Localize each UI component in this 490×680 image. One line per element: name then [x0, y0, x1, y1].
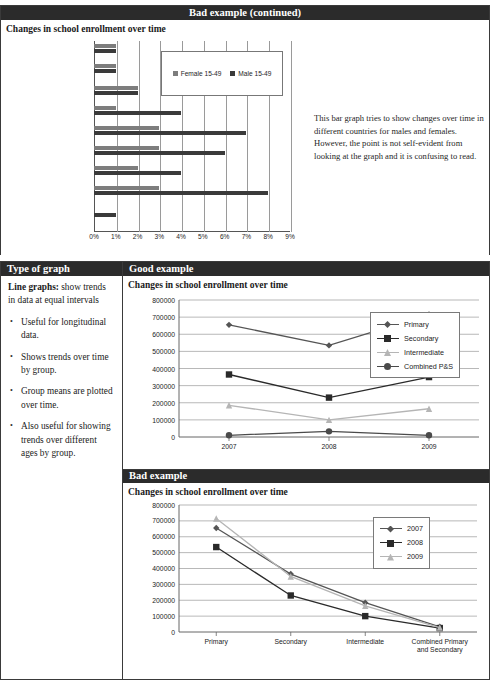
- bar-chart: Roina 2005Roina 2000Moavia 2003Moavia 19…: [1, 38, 306, 252]
- bar-female: [94, 146, 159, 150]
- table-left-column: Type of graph Line graphs: show trends i…: [1, 262, 123, 679]
- bar-female: [94, 186, 159, 190]
- bar-male: [94, 191, 268, 195]
- bar-chart-legend-label: Male 15-49: [238, 70, 271, 77]
- legend-item: 2008: [380, 536, 423, 550]
- data-point-marker: [213, 543, 219, 549]
- y-axis-tick-label: 0: [129, 628, 175, 635]
- legend-item: 2007: [380, 522, 423, 536]
- good-example-panel: Changes in school enrollment over time 0…: [123, 276, 489, 469]
- legend-marker: [380, 524, 402, 533]
- bar-chart-legend-label: Female 15-49: [181, 70, 222, 77]
- legend-item: Secondary: [377, 331, 453, 345]
- good-example-line-chart: 0100000200000300000400000500000600000700…: [123, 276, 489, 469]
- column-header-good-example: Good example: [123, 262, 489, 276]
- y-axis-tick-label: 300000: [129, 580, 175, 587]
- bad-example-line-chart-legend: 200720082009: [373, 517, 430, 569]
- data-point-marker: [362, 612, 368, 618]
- y-axis-tick-label: 600000: [129, 331, 175, 338]
- legend-item: 2009: [380, 550, 423, 564]
- y-axis-tick-label: 200000: [129, 596, 175, 603]
- data-point-marker: [213, 515, 219, 521]
- legend-marker: [380, 538, 402, 547]
- y-axis-tick-label: 400000: [129, 365, 175, 372]
- section-band-bad-example-continued: Bad example (continued): [1, 6, 489, 20]
- y-axis-tick-label: 300000: [129, 382, 175, 389]
- y-axis-tick-label: 200000: [129, 399, 175, 406]
- bar-chart-title: Changes in school enrollment over time: [6, 24, 489, 34]
- document-page: Bad example (continued) Changes in schoo…: [0, 0, 490, 680]
- bar-female: [94, 86, 138, 90]
- data-point-marker: [326, 394, 332, 400]
- data-point-marker: [226, 322, 232, 328]
- bar-female: [94, 106, 116, 110]
- legend-item: Combined P&S: [377, 359, 453, 373]
- data-point-marker: [326, 342, 332, 348]
- data-point-marker: [226, 371, 232, 377]
- bar-female: [94, 44, 116, 48]
- data-point-marker: [213, 524, 219, 530]
- y-axis-tick-label: 100000: [129, 416, 175, 423]
- y-axis-tick-label: 700000: [129, 314, 175, 321]
- legend-label: Primary: [404, 320, 429, 329]
- bar-chart-x-tick-label: 7%: [242, 233, 252, 240]
- bar-chart-x-tick-label: 9%: [285, 233, 295, 240]
- bar-male: [94, 91, 138, 95]
- y-axis-tick-label: 800000: [129, 501, 175, 508]
- line-graph-bullet: Shows trends over time by group.: [8, 351, 115, 378]
- bar-male: [94, 131, 246, 135]
- bar-male: [94, 171, 181, 175]
- legend-marker: [377, 362, 399, 371]
- x-axis-tick-label: Secondary: [260, 638, 322, 647]
- bad-example-line-chart: 0100000200000300000400000500000600000700…: [123, 483, 489, 680]
- y-axis-tick-label: 600000: [129, 533, 175, 540]
- y-axis-tick-label: 0: [129, 434, 175, 441]
- line-graph-bullet: Group means are plotted over time.: [8, 385, 115, 412]
- x-axis-tick-label: Intermediate: [334, 638, 396, 647]
- good-example-line-chart-legend: PrimarySecondaryIntermediateCombined P&S: [370, 312, 460, 378]
- bar-chart-x-tick-label: 2%: [133, 233, 143, 240]
- line-graph-lead: Line graphs: show trends in data at equa…: [8, 281, 115, 308]
- bar-chart-gridline: [139, 41, 140, 232]
- legend-label: 2008: [407, 538, 423, 547]
- legend-marker: [377, 334, 399, 343]
- x-axis-tick-label: 2009: [401, 443, 457, 452]
- bad-example-continued-body: Changes in school enrollment over time R…: [1, 24, 489, 260]
- bar-male: [94, 213, 116, 217]
- bad-example-note-text: This bar graph tries to show changes ove…: [314, 112, 486, 162]
- y-axis-tick-label: 800000: [129, 297, 175, 304]
- bar-female: [94, 64, 116, 68]
- y-axis-tick-label: 400000: [129, 565, 175, 572]
- legend-label: Secondary: [404, 334, 438, 343]
- y-axis-tick-label: 500000: [129, 348, 175, 355]
- y-axis-tick-label: 500000: [129, 549, 175, 556]
- line-graph-bullet: Also useful for showing trends over diff…: [8, 420, 115, 460]
- data-point-marker: [226, 432, 232, 438]
- column-header-type-of-graph: Type of graph: [1, 262, 122, 276]
- line-graph-lead-bold: Line graphs:: [8, 282, 59, 292]
- legend-item: Intermediate: [377, 345, 453, 359]
- bar-chart-x-tick-label: 0%: [89, 233, 99, 240]
- data-point-marker: [288, 592, 294, 598]
- bar-chart-x-tick-label: 8%: [263, 233, 273, 240]
- legend-label: Combined P&S: [404, 362, 453, 371]
- bad-example-panel: Changes in school enrollment over time 0…: [123, 483, 489, 680]
- table-right-column: Good example Changes in school enrollmen…: [123, 262, 489, 679]
- bar-chart-gridline: [291, 41, 292, 232]
- bar-chart-gridline: [117, 41, 118, 232]
- legend-marker: [377, 320, 399, 329]
- bar-male: [94, 111, 181, 115]
- bar-female: [94, 126, 159, 130]
- bar-female: [94, 166, 138, 170]
- x-axis-tick-label: 2007: [201, 443, 257, 452]
- y-axis-tick-label: 700000: [129, 517, 175, 524]
- bar-chart-legend-item: Female 15-49: [173, 70, 222, 77]
- bar-chart-legend-item: Male 15-49: [230, 70, 271, 77]
- bar-male: [94, 151, 225, 155]
- column-header-bad-example: Bad example: [123, 469, 489, 483]
- bad-example-continued-section: Bad example (continued) Changes in schoo…: [0, 5, 490, 255]
- bar-male: [94, 49, 116, 53]
- legend-marker: [377, 348, 399, 357]
- line-graph-description: Line graphs: show trends in data at equa…: [1, 276, 122, 468]
- line-graph-bullet: Useful for longitudinal data.: [8, 316, 115, 343]
